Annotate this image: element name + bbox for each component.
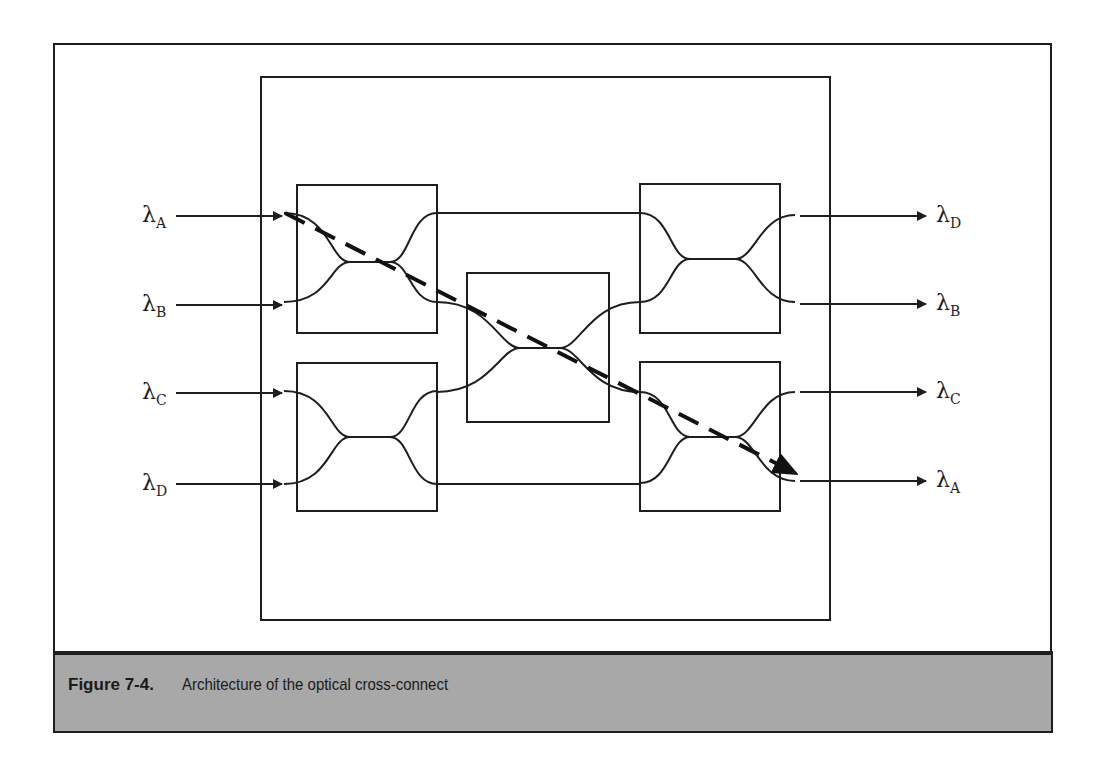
optical-cross-connect-diagram: λA λB λC λD λD λB λC λA [0, 0, 1104, 763]
switch-middle [437, 273, 640, 422]
input-label-c: λC [142, 379, 167, 408]
output-label-c: λC [936, 378, 961, 407]
figure-caption: Architecture of the optical cross-connec… [182, 675, 448, 695]
interconnect-top-round [425, 213, 655, 230]
output-labels: λD λB λC λA [936, 202, 961, 496]
switch-bottom-right [640, 362, 795, 511]
input-label-a: λA [142, 202, 167, 231]
input-labels: λA λB λC λD [142, 202, 167, 499]
switch-top-left [284, 185, 437, 333]
figure-caption-bar: Figure 7-4. Architecture of the optical … [53, 651, 1053, 733]
input-arrows [176, 216, 282, 484]
output-label-a: λA [936, 467, 961, 496]
output-label-d: λD [936, 202, 961, 231]
highlighted-path-arrow [285, 213, 797, 474]
output-arrows [800, 216, 926, 481]
output-label-b: λB [936, 290, 960, 319]
input-label-b: λB [142, 291, 166, 320]
switch-top-right [640, 184, 795, 333]
switch-bottom-left [284, 363, 437, 511]
input-label-d: λD [142, 470, 167, 499]
figure-number: Figure 7-4. [68, 675, 154, 695]
